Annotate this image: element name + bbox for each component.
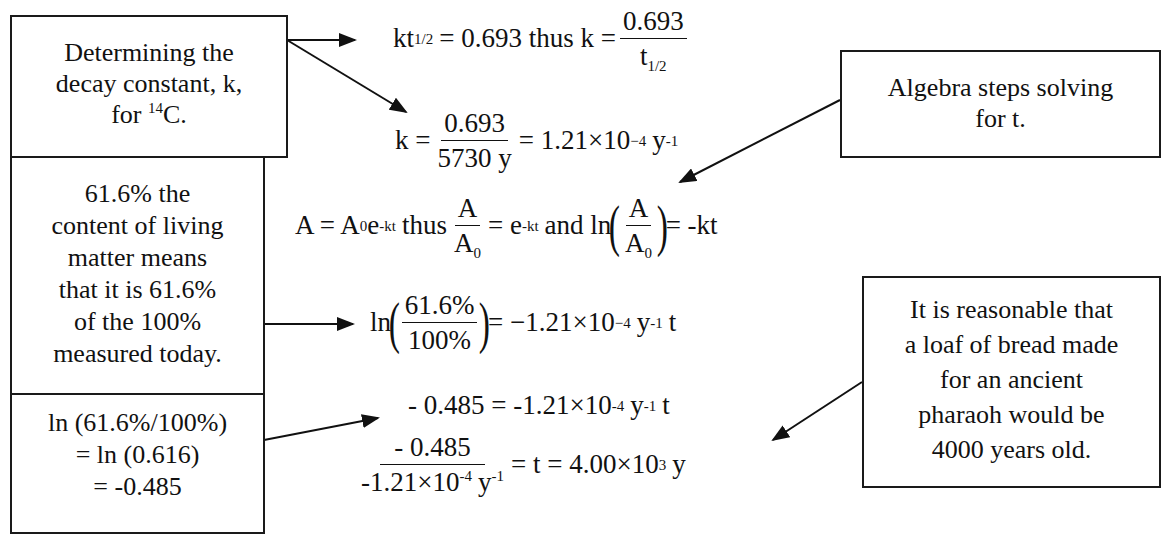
box-line: 4000 years old. xyxy=(932,432,1092,467)
algebra-steps-box: Algebra steps solving for t. xyxy=(840,50,1161,158)
box-line: Algebra steps solving xyxy=(888,72,1113,103)
percent-meaning-box: 61.6% the content of living matter means… xyxy=(10,156,265,395)
box-line: = -0.485 xyxy=(93,471,181,503)
box-line: decay constant, k, xyxy=(56,68,242,99)
box-line: of the 100% xyxy=(74,306,201,338)
fraction: 0.693 t1/2 xyxy=(620,6,687,71)
equation-half-life: kt1/2 = 0.693 thus k = 0.693 t1/2 xyxy=(393,6,691,71)
box-line: a loaf of bread made xyxy=(905,327,1119,362)
isotope-mass: 14 xyxy=(148,100,163,116)
box-line: = ln (0.616) xyxy=(76,439,200,471)
box-line: for 14C. xyxy=(111,99,187,130)
fraction: - 0.485 -1.21×10-4y-1 xyxy=(358,432,507,497)
box-line: ln (61.6%/100%) xyxy=(48,407,227,439)
conclusion-box: It is reasonable that a loaf of bread ma… xyxy=(862,276,1161,488)
box-line: for an ancient xyxy=(940,362,1083,397)
box-line: for t. xyxy=(975,103,1026,134)
arrow-algebra-to-eq3 xyxy=(680,100,840,182)
equation-solve-t: - 0.485 -1.21×10-4y-1 = t = 4.00×103 y xyxy=(358,432,686,497)
box-line: 61.6% the xyxy=(85,178,190,210)
box-line: content of living xyxy=(52,210,224,242)
equation-substituted: - 0.485 = -1.21×10-4 y-1 t xyxy=(408,390,670,421)
fraction: A A0 xyxy=(451,193,484,258)
equation-ln-percent: ln ( 61.6% 100% ) = −1.21×10−4 y-1 t xyxy=(370,290,676,355)
fraction: A A0 xyxy=(622,193,655,258)
box-line: that it is 61.6% xyxy=(59,274,216,306)
box-line: Determining the xyxy=(64,37,234,68)
equation-k-value: k = 0.693 5730 y = 1.21×10−4 y-1 xyxy=(395,108,678,173)
arrow-conclusion-to-eq6 xyxy=(773,382,862,440)
box-line: measured today. xyxy=(53,338,222,370)
arrow-to-eq2 xyxy=(287,40,406,112)
equation-decay-law: A = A0e-kt thus A A0 = e-kt and ln ( A A… xyxy=(295,193,718,258)
ln-calculation-box: ln (61.6%/100%) = ln (0.616) = -0.485 xyxy=(10,393,265,534)
box-line: It is reasonable that xyxy=(910,292,1113,327)
fraction: 61.6% 100% xyxy=(402,290,478,355)
fraction: 0.693 5730 y xyxy=(434,108,514,173)
box-line: matter means xyxy=(68,242,207,274)
decay-constant-box: Determining the decay constant, k, for 1… xyxy=(10,15,288,158)
box-line: pharaoh would be xyxy=(918,397,1104,432)
